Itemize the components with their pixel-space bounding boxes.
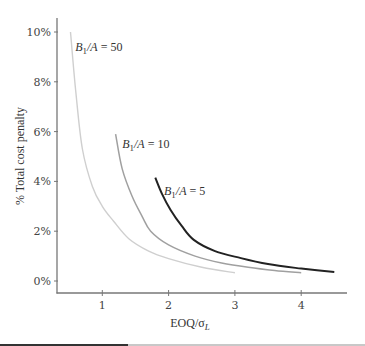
y-tick-label: 0% bbox=[34, 275, 51, 288]
curve-labels: B1/A = 50B1/A = 10B1/A = 5 bbox=[75, 40, 205, 200]
curve-series-1 bbox=[71, 32, 235, 273]
y-axis-title: % Total cost penalty bbox=[13, 107, 27, 205]
curve-label: B1/A = 50 bbox=[75, 40, 122, 56]
y-tick-label: 6% bbox=[34, 126, 51, 139]
axes bbox=[57, 18, 348, 294]
y-ticks: 0%2%4%6%8%10% bbox=[27, 26, 58, 288]
curve-series-2 bbox=[116, 134, 302, 273]
curves bbox=[71, 32, 335, 273]
y-tick-label: 2% bbox=[34, 225, 51, 238]
y-tick-label: 4% bbox=[34, 175, 51, 188]
x-axis-title: EOQ/σL bbox=[170, 316, 209, 332]
curve-label: B1/A = 5 bbox=[164, 184, 205, 200]
chart: 0%2%4%6%8%10% 1234 B1/A = 50B1/A = 10B1/… bbox=[0, 0, 365, 346]
y-tick-label: 10% bbox=[27, 26, 51, 39]
x-tick-label: 2 bbox=[165, 299, 172, 312]
y-tick-label: 8% bbox=[34, 76, 51, 89]
x-axis-title-main: EOQ/σ bbox=[170, 316, 205, 330]
curve-label: B1/A = 10 bbox=[122, 137, 169, 153]
x-tick-label: 4 bbox=[298, 299, 305, 312]
x-axis-title-sub: L bbox=[204, 322, 210, 332]
x-tick-label: 1 bbox=[99, 299, 106, 312]
x-tick-label: 3 bbox=[231, 299, 238, 312]
